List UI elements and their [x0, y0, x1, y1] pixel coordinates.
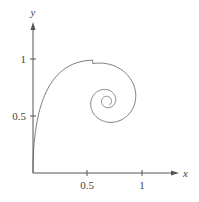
spiral-trajectory	[33, 60, 136, 173]
y-tick-label-0.5: 0.5	[12, 110, 26, 122]
x-axis-arrow-icon	[171, 171, 179, 176]
y-tick-label-1: 1	[21, 53, 27, 65]
x-tick-label-0.5: 0.5	[80, 179, 94, 191]
x-tick-label-1: 1	[139, 179, 145, 191]
x-axis-label: x	[182, 167, 188, 179]
y-axis-arrow-icon	[31, 22, 36, 30]
y-axis-label: y	[30, 6, 36, 18]
phase-portrait-chart: 0.5 1 x 0.5 1 y	[0, 0, 199, 202]
y-axis: 0.5 1 y	[12, 6, 36, 173]
x-axis: 0.5 1 x	[33, 167, 188, 191]
